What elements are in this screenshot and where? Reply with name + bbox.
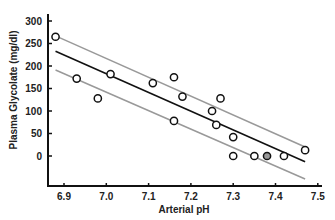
x-tick-label: 7.2	[184, 191, 198, 202]
x-tick-label: 7.3	[226, 191, 240, 202]
data-point	[230, 152, 237, 159]
x-tick-label: 6.9	[57, 191, 71, 202]
y-tick-label: 150	[25, 83, 42, 94]
data-point	[170, 117, 177, 124]
x-axis-title: Arterial pH	[158, 204, 209, 215]
x-tick-label: 7.5	[311, 191, 325, 202]
data-point	[280, 152, 287, 159]
x-tick-label: 7.0	[99, 191, 113, 202]
data-point	[107, 71, 114, 78]
y-tick-label: 50	[31, 128, 43, 139]
regression-line	[56, 51, 306, 162]
data-point	[170, 74, 177, 81]
y-tick-label: 100	[25, 106, 42, 117]
y-axis-title: Plasma Glycolate (mg/dl)	[8, 31, 19, 150]
data-point	[149, 80, 156, 87]
data-point	[213, 121, 220, 128]
lower-confidence-bound	[56, 70, 306, 179]
upper-confidence-bound	[56, 36, 306, 147]
data-point	[251, 152, 258, 159]
data-point	[302, 147, 309, 154]
data-point	[94, 95, 101, 102]
data-point	[230, 134, 237, 141]
data-point	[217, 95, 224, 102]
y-tick-label: 0	[36, 151, 42, 162]
data-point	[52, 33, 59, 40]
data-point	[208, 107, 215, 114]
y-tick-label: 300	[25, 16, 42, 27]
data-point	[263, 152, 270, 159]
data-point	[73, 75, 80, 82]
data-point	[179, 93, 186, 100]
chart-canvas: 6.97.07.17.27.37.47.5 050100150200250300…	[0, 0, 335, 220]
scatter-chart: 6.97.07.17.27.37.47.5 050100150200250300…	[0, 0, 335, 220]
y-tick-label: 250	[25, 38, 42, 49]
x-tick-label: 7.4	[269, 191, 283, 202]
x-tick-label: 7.1	[142, 191, 156, 202]
y-tick-label: 200	[25, 61, 42, 72]
